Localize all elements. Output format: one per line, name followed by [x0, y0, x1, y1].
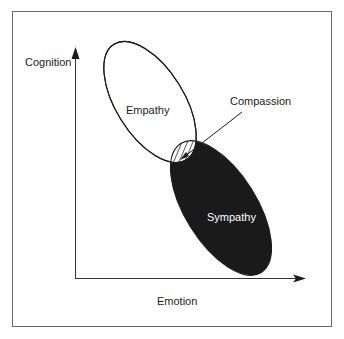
compassion-label: Compassion	[230, 95, 291, 107]
x-axis	[75, 275, 306, 283]
y-axis-label: Cognition	[25, 56, 71, 68]
empathy-label: Empathy	[126, 104, 170, 116]
y-axis	[72, 47, 80, 278]
diagram-canvas: Cognition Emotion Empathy Sympathy Compa…	[0, 0, 344, 339]
arrow-up-icon	[72, 47, 80, 59]
x-axis-label: Emotion	[157, 295, 197, 307]
sympathy-label: Sympathy	[207, 211, 256, 223]
